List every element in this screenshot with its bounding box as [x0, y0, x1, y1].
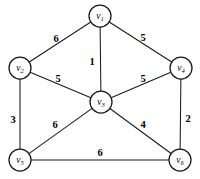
edge-weight-v1-v2: 6 — [53, 33, 58, 44]
graph-edge-v3-v5 — [29, 108, 92, 153]
edge-weight-v4-v6: 2 — [185, 113, 190, 124]
edge-weight-v3-v4: 5 — [140, 73, 145, 84]
graph-node-v4[interactable]: v4 — [170, 57, 192, 79]
graph-edge-v1-v2 — [29, 22, 91, 62]
edge-weight-v2-v3: 5 — [55, 73, 60, 84]
edge-weight-v3-v6: 4 — [140, 119, 146, 130]
graph-node-v5[interactable]: v5 — [9, 149, 31, 171]
graph-node-v1[interactable]: v1 — [89, 5, 111, 27]
graph-node-v6[interactable]: v6 — [169, 149, 191, 171]
edge-weight-v1-v4: 5 — [140, 32, 145, 43]
weighted-graph-figure: v1v2v3v4v5v6 6515536426 — [0, 0, 200, 179]
graph-edge-v1-v3 — [100, 27, 101, 91]
edge-weight-v1-v3: 1 — [89, 56, 94, 67]
graph-canvas: v1v2v3v4v5v6 6515536426 — [0, 0, 200, 179]
edge-weight-v2-v5: 3 — [10, 114, 15, 125]
node-label-subscript-v1: 1 — [100, 15, 103, 22]
graph-edge-v3-v6 — [110, 109, 171, 154]
graph-node-v3[interactable]: v3 — [90, 91, 112, 113]
edge-weight-v3-v5: 6 — [52, 119, 57, 130]
edge-weight-v5-v6: 6 — [97, 147, 102, 158]
graph-edge-v4-v6 — [180, 79, 181, 149]
graph-node-v2[interactable]: v2 — [9, 57, 31, 79]
node-label-subscript-v3: 3 — [100, 101, 105, 108]
